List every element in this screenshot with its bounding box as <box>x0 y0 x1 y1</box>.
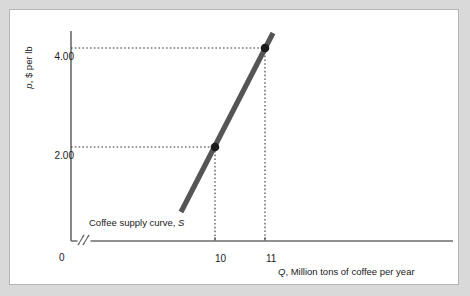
x-tick-label-11: 11 <box>266 253 276 264</box>
y-axis-unit: , $ per lb <box>23 46 34 83</box>
supply-curve-label: Coffee supply curve, S <box>89 217 184 228</box>
supply-curve-label-text: Coffee supply curve, <box>89 217 175 228</box>
x-tick-label-10: 10 <box>215 253 226 264</box>
y-axis-title: p, $ per lb <box>23 33 34 103</box>
origin-label: 0 <box>59 252 65 263</box>
page-background: p, $ per lb Q, Million tons of coffee pe… <box>0 0 470 296</box>
y-axis-symbol: p <box>23 83 34 88</box>
supply-curve-line <box>181 33 273 212</box>
y-tick-label-4: 4.00 <box>48 51 74 62</box>
x-axis-title: Q, Million tons of coffee per year <box>278 266 415 277</box>
y-tick-label-2: 2.00 <box>48 150 74 161</box>
supply-curve-chart <box>10 10 459 285</box>
supply-curve-label-symbol: S <box>178 217 184 228</box>
figure-card: p, $ per lb Q, Million tons of coffee pe… <box>9 9 459 285</box>
x-axis-unit: , Million tons of coffee per year <box>285 266 414 277</box>
axis-break-icon <box>78 235 91 245</box>
data-point-11-4 <box>261 44 270 53</box>
data-point-10-2 <box>211 143 220 152</box>
